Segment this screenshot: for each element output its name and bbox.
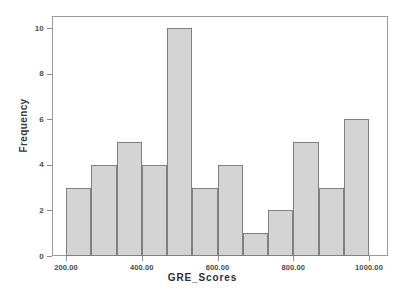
histogram-bar bbox=[293, 142, 318, 256]
histogram-figure: 0246810 Frequency 200.00400.00600.00800.… bbox=[0, 0, 405, 296]
x-axis-tick-mark bbox=[142, 256, 143, 261]
x-axis-tick-mark bbox=[218, 256, 219, 261]
histogram-bar bbox=[91, 165, 116, 256]
x-axis-tick-mark bbox=[293, 256, 294, 261]
x-axis-tick-label: 800.00 bbox=[263, 263, 323, 272]
x-axis-tick-label: 200.00 bbox=[36, 263, 96, 272]
histogram-bars bbox=[52, 16, 388, 256]
histogram-bar bbox=[344, 119, 369, 256]
x-axis-title: GRE_Scores bbox=[0, 272, 405, 283]
histogram-bar bbox=[192, 188, 217, 256]
histogram-bar bbox=[268, 210, 293, 256]
y-axis-title: Frequency bbox=[18, 81, 29, 171]
x-axis-tick-mark bbox=[369, 256, 370, 261]
histogram-bar bbox=[218, 165, 243, 256]
x-axis-tick-label: 1000.00 bbox=[339, 263, 399, 272]
y-axis-tick-label: 8 bbox=[12, 69, 44, 78]
histogram-bar bbox=[167, 28, 192, 256]
y-axis-tick-label: 2 bbox=[12, 206, 44, 215]
y-axis-tick-label: 0 bbox=[12, 252, 44, 261]
x-axis-tick-label: 600.00 bbox=[188, 263, 248, 272]
x-axis-tick-mark bbox=[66, 256, 67, 261]
y-axis-tick-label: 10 bbox=[12, 24, 44, 33]
histogram-bar bbox=[142, 165, 167, 256]
y-axis-tick-mark bbox=[47, 256, 52, 257]
x-axis-tick-label: 400.00 bbox=[112, 263, 172, 272]
histogram-bar bbox=[117, 142, 142, 256]
histogram-bar bbox=[66, 188, 91, 256]
histogram-bar bbox=[243, 233, 268, 256]
histogram-bar bbox=[319, 188, 344, 256]
